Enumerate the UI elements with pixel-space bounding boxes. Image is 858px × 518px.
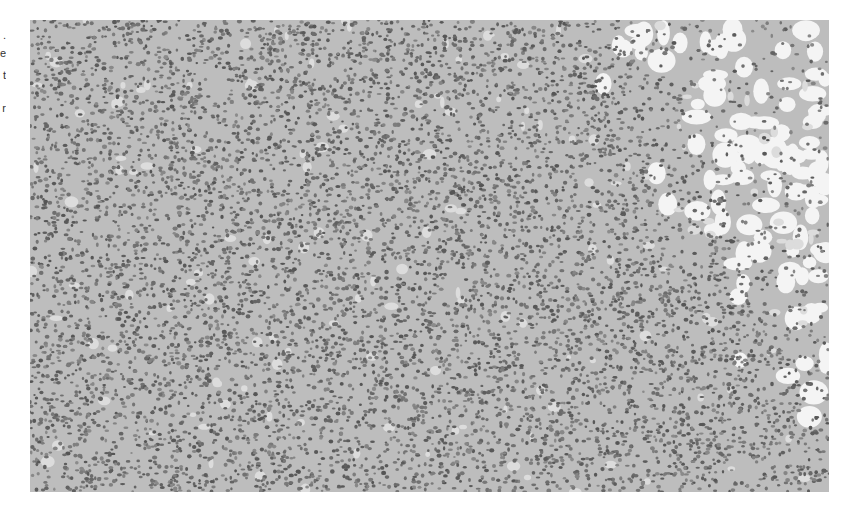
text-fragment: r [0,103,6,114]
histology-micrograph [30,20,829,492]
text-fragment: . [0,30,6,41]
tissue-texture [30,20,829,492]
text-fragment: e [0,48,6,59]
text-fragment: t [0,70,6,81]
